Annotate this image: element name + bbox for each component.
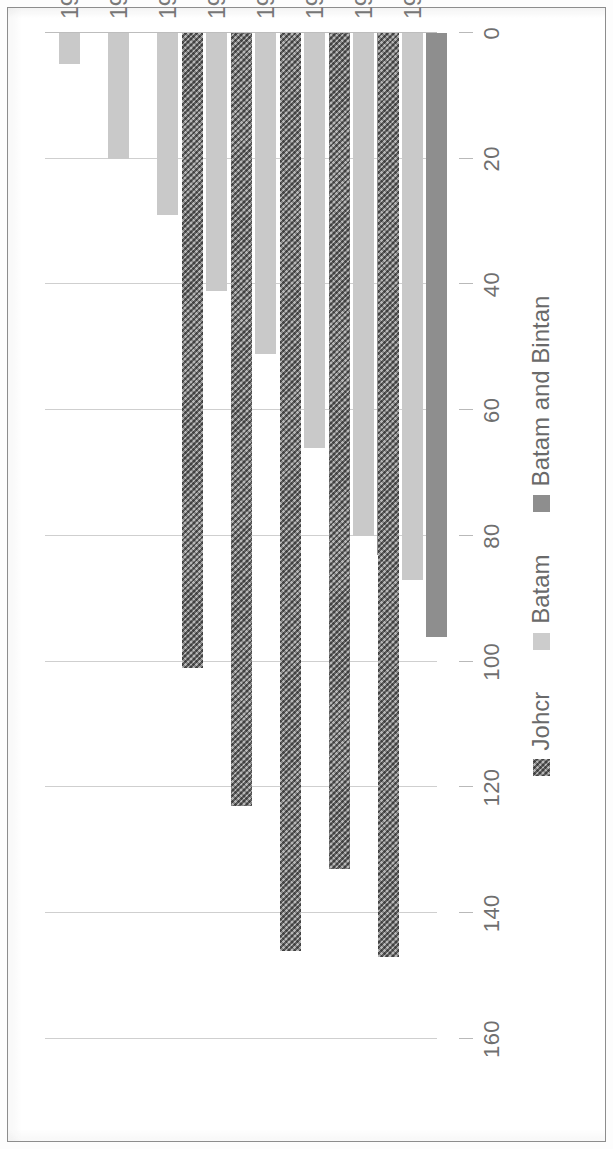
category-axis-label: 1995: [301, 0, 328, 19]
batam-bintan-swatch-icon: [532, 495, 549, 512]
category-axis-label: 1990: [56, 0, 83, 19]
category-axis-label: 1997: [399, 0, 426, 19]
category-axis: 19901991199219931994199519961997: [27, 15, 587, 1135]
scanned-page: 020406080100120140160 199019911992199319…: [0, 0, 613, 1149]
johor-swatch-icon: [532, 759, 549, 776]
legend-label: Johcr: [527, 691, 555, 750]
batam-swatch-icon: [532, 632, 549, 649]
category-axis-label: 1996: [350, 0, 377, 19]
category-axis-label: 1994: [252, 0, 279, 19]
legend-item-johcr[interactable]: Johcr: [527, 691, 555, 776]
legend-item-batam[interactable]: Batam: [527, 554, 555, 649]
page-border-frame: 020406080100120140160 199019911992199319…: [7, 7, 606, 1142]
category-axis-label: 1993: [203, 0, 230, 19]
category-axis-label: 1992: [154, 0, 181, 19]
legend-item-batam-and-bintan[interactable]: Batam and Bintan: [527, 295, 555, 512]
category-axis-label: 1991: [105, 0, 132, 19]
bar-chart: 020406080100120140160 199019911992199319…: [27, 15, 587, 1135]
legend-label: Batam: [527, 554, 555, 623]
legend-label: Batam and Bintan: [527, 295, 555, 486]
chart-legend: JohcrBatamBatam and Bintan: [519, 33, 563, 1039]
